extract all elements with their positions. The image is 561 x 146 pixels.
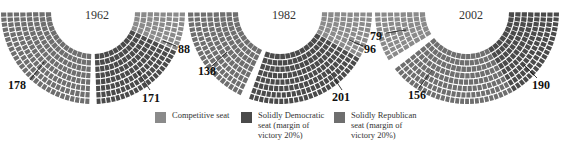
swatch-competitive xyxy=(155,112,166,123)
label-competitive: 79 xyxy=(370,29,382,44)
chart-year: 1982 xyxy=(272,8,296,23)
swatch-republican xyxy=(334,112,345,123)
legend-item-competitive: Competitive seat xyxy=(155,110,229,123)
label-democratic: 201 xyxy=(332,90,350,105)
hemicycle-1962: 1962 178 171 88 xyxy=(0,0,187,110)
chart-year: 1962 xyxy=(85,8,109,23)
legend: Competitive seat Solidly Democratic seat… xyxy=(155,110,455,146)
legend-item-democratic: Solidly Democratic seat (margin of victo… xyxy=(241,110,324,140)
legend-label: Solidly Democratic seat (margin of victo… xyxy=(258,110,324,140)
legend-label: Solidly Republican seat (margin of victo… xyxy=(351,110,416,140)
label-republican: 178 xyxy=(8,78,26,93)
chart-year: 2002 xyxy=(459,8,483,23)
legend-item-republican: Solidly Republican seat (margin of victo… xyxy=(334,110,416,140)
label-republican: 138 xyxy=(198,64,216,79)
hemicycle-2002: 2002 156 190 79 xyxy=(374,0,561,110)
hemicycle-1982: 1982 138 201 96 xyxy=(187,0,374,110)
label-democratic: 171 xyxy=(142,91,160,106)
legend-label: Competitive seat xyxy=(172,110,229,120)
swatch-democratic xyxy=(241,112,252,123)
label-democratic: 190 xyxy=(532,78,550,93)
label-republican: 156 xyxy=(408,88,426,103)
